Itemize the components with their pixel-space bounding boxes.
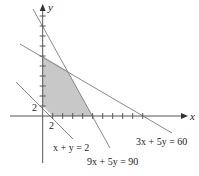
y-tick-label-2: 2 xyxy=(32,102,37,113)
label-3x-plus-5y-60: 3x + 5y = 60 xyxy=(136,136,187,147)
y-axis-arrow-icon xyxy=(40,4,46,11)
label-x-plus-y-2: x + y = 2 xyxy=(53,142,89,153)
y-axis-label: y xyxy=(47,1,53,13)
label-9x-plus-5y-90: 9x + 5y = 90 xyxy=(87,156,138,167)
x-tick-label-2: 2 xyxy=(49,120,54,131)
lp-diagram: x y 2 2 x + y = 2 9x + 5y = 90 3x + 5y =… xyxy=(0,0,199,176)
feasible-region xyxy=(43,56,93,116)
x-axis-arrow-icon xyxy=(181,113,188,119)
x-axis-label: x xyxy=(189,110,195,122)
